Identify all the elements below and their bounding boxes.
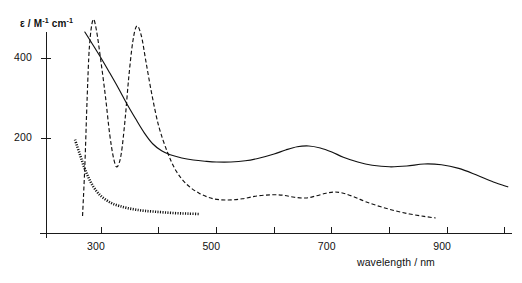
x-tick-label-500: 500 xyxy=(202,240,220,252)
x-tick-label-900: 900 xyxy=(433,240,451,252)
x-tick-label-700: 700 xyxy=(318,240,336,252)
y-axis-title-slash: / M xyxy=(25,18,42,29)
y-axis-title-unit: cm xyxy=(49,18,67,29)
spectrum-figure: 200400 300500700900 ε / M-1 cm-1 wavelen… xyxy=(0,0,522,283)
y-tick-label-400: 400 xyxy=(14,51,32,63)
curves-group xyxy=(75,19,508,218)
y-axis-title-exp1: -1 xyxy=(42,16,49,25)
y-tick-label-200: 200 xyxy=(14,131,32,143)
x-tick-label-300: 300 xyxy=(87,240,105,252)
axes-group xyxy=(40,32,512,238)
curve-solid-spectrum xyxy=(85,32,508,187)
y-axis-title: ε / M-1 cm-1 xyxy=(20,18,73,29)
y-axis-title-exp2: -1 xyxy=(67,16,74,25)
x-axis-title: wavelength / nm xyxy=(357,256,435,268)
